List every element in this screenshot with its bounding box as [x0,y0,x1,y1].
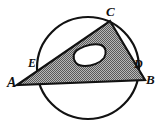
vertex-label-A: A [7,76,16,90]
triangle-shaded-region [17,21,145,85]
geometry-figure: A B C D E [0,0,163,129]
vertex-label-B: B [146,73,155,86]
vertex-label-D: D [134,58,143,70]
vertex-label-C: C [106,5,115,18]
vertex-label-E: E [28,57,36,69]
